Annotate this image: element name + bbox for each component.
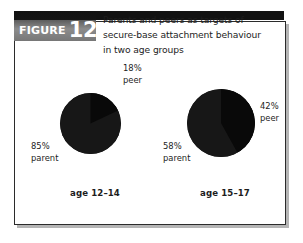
pie-chart-age-12-14: 18% peer 85% parent age 12–14 [35, 62, 155, 222]
figure-label-number: 12.3 [69, 20, 96, 40]
pie-label-peer-left-name: peer [123, 74, 142, 86]
charts-area: 18% peer 85% parent age 12–14 42% peer 5… [15, 62, 285, 222]
caption-line-2: secure-base attachment behaviour [103, 27, 283, 42]
pie-label-peer-left-pct: 18% [123, 62, 142, 74]
pie-label-parent-left-name: parent [31, 152, 58, 164]
pie-label-parent-right-pct: 58% [163, 140, 190, 152]
pie-label-parent-right: 58% parent [163, 140, 190, 164]
figure-caption: Parents and peers as targets of secure-b… [103, 12, 283, 57]
group-label-age-15-17: age 15–17 [165, 188, 285, 198]
pie-label-parent-right-name: parent [163, 152, 190, 164]
pie-label-parent-left-pct: 85% [31, 140, 58, 152]
caption-line-3: in two age groups [103, 42, 283, 57]
pie-label-peer-right: 42% peer [260, 100, 279, 124]
caption-line-1: Parents and peers as targets of [103, 12, 283, 27]
figure-number-tab: FIGURE 12.3 [14, 11, 96, 41]
pie-chart-age-15-17: 42% peer 58% parent age 15–17 [165, 62, 285, 222]
pie-label-peer-left: 18% peer [123, 62, 142, 86]
pie-svg-left [60, 93, 121, 154]
pie-label-peer-right-name: peer [260, 112, 279, 124]
pie-svg-right [187, 89, 255, 157]
figure-container: FIGURE 12.3 Parents and peers as targets… [0, 0, 303, 243]
pie-label-parent-left: 85% parent [31, 140, 58, 164]
group-label-age-12-14: age 12–14 [35, 188, 155, 198]
pie-label-peer-right-pct: 42% [260, 100, 279, 112]
figure-label-word: FIGURE [19, 25, 66, 37]
